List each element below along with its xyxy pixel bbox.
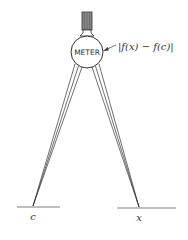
meter-knob [80,12,94,36]
meter-compass-diagram: METER |f(x) − f(c)| c x [0,0,188,240]
readout-label: |f(x) − f(c)| [118,41,174,53]
left-leg [33,64,82,206]
point-x-label: x [136,212,142,223]
readout-arrow [103,45,116,51]
right-leg [92,64,139,207]
meter-label: METER [74,48,100,57]
point-c-label: c [30,211,36,222]
